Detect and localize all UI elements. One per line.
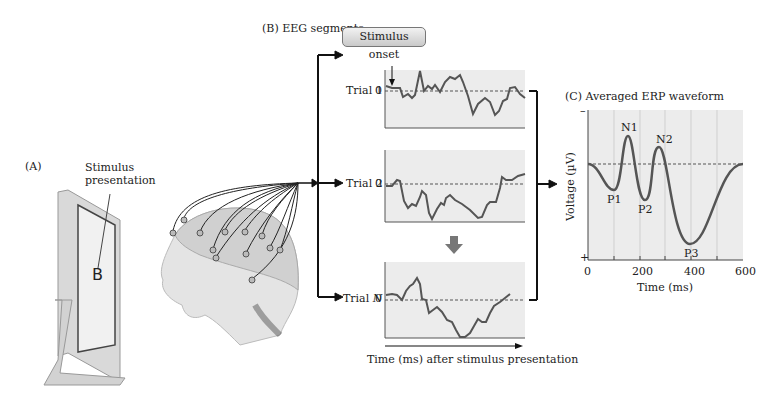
y-axis-top-sign: – (580, 104, 586, 117)
trial-1-trace (385, 70, 525, 128)
peak-n2: N2 (656, 133, 673, 146)
x-axis-label: Time (ms) (637, 281, 693, 294)
peak-p3: P3 (684, 247, 698, 260)
x-tick-600: 600 (735, 265, 756, 278)
panel-c-label: (C) Averaged ERP waveform (565, 90, 724, 103)
trial-n-zero: 0 (375, 292, 382, 305)
trial-1-zero: 0 (375, 84, 382, 97)
monitor-icon (44, 190, 125, 385)
stimulus-letter: B (92, 265, 103, 284)
peak-n1: N1 (621, 121, 638, 134)
trial-2-trace (385, 150, 525, 222)
peak-p2: P2 (638, 203, 652, 216)
x-tick-0: 0 (584, 265, 591, 278)
averaging-down-arrow (445, 236, 463, 254)
x-tick-200: 200 (632, 265, 653, 278)
y-axis-bottom-sign: + (580, 251, 589, 264)
trial-n-trace (385, 262, 525, 349)
y-axis-label: Voltage (µV) (564, 152, 577, 221)
head-with-eeg-cap-icon (161, 183, 298, 345)
trial-2-zero: 0 (375, 177, 382, 190)
stimulus-onset-badge: Stimulus onset (342, 27, 426, 47)
average-bracket (529, 91, 557, 300)
panel-b-x-axis-label: Time (ms) after stimulus presentation (367, 353, 578, 366)
peak-p1: P1 (607, 193, 621, 206)
x-tick-400: 400 (684, 265, 705, 278)
signal-arrow (298, 51, 343, 301)
